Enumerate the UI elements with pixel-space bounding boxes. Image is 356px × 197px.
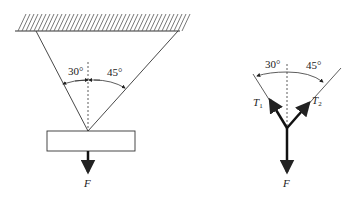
hatch-mark — [18, 14, 26, 31]
ceiling-hatch — [15, 14, 190, 31]
angle-label-45: 45° — [306, 59, 321, 71]
hatch-mark — [94, 14, 102, 31]
angle-arc-right — [287, 72, 323, 82]
tension1-label: T1 — [253, 96, 263, 110]
hatch-mark — [102, 14, 110, 31]
hatch-mark — [170, 14, 178, 31]
angle-label-30: 30° — [265, 58, 280, 70]
hatch-mark — [142, 14, 150, 31]
hatch-mark — [134, 14, 142, 31]
hanging-block — [47, 131, 135, 151]
hatch-mark — [114, 14, 122, 31]
hatch-mark — [154, 14, 162, 31]
tension2-label: T2 — [312, 94, 322, 108]
hatch-mark — [66, 14, 74, 31]
angle-label-45: 45° — [107, 66, 122, 78]
force-label: F — [282, 177, 290, 189]
hatch-mark — [138, 14, 146, 31]
hatch-mark — [106, 14, 114, 31]
hatch-mark — [58, 14, 66, 31]
angle-label-30: 30° — [68, 65, 83, 77]
hatch-mark — [30, 14, 38, 31]
hatch-mark — [126, 14, 134, 31]
hatch-mark — [150, 14, 158, 31]
hatch-mark — [174, 14, 182, 31]
angle-arc-left2 — [75, 80, 88, 81]
hatch-mark — [54, 14, 62, 31]
hatch-mark — [86, 14, 94, 31]
hatch-mark — [90, 14, 98, 31]
hatch-mark — [162, 14, 170, 31]
hatch-mark — [50, 14, 58, 31]
hatch-mark — [178, 14, 186, 31]
hatch-mark — [78, 14, 86, 31]
rope-right — [88, 31, 178, 131]
hatch-mark — [158, 14, 166, 31]
hatch-mark — [166, 14, 174, 31]
right-panel: 30° 45° T1 T2 F — [253, 58, 341, 189]
hatch-mark — [38, 14, 46, 31]
hatch-mark — [122, 14, 130, 31]
hatch-mark — [146, 14, 154, 31]
hatch-mark — [22, 14, 30, 31]
tension2-arrow — [287, 103, 309, 128]
tension1-arrow — [270, 100, 287, 128]
hatch-mark — [62, 14, 70, 31]
hatch-mark — [82, 14, 90, 31]
free-body-diagram: 30° 45° F 30° 45° T1 T2 F — [0, 0, 356, 197]
left-panel: 30° 45° F — [15, 14, 190, 189]
hatch-mark — [182, 14, 190, 31]
hatch-mark — [70, 14, 78, 31]
hatch-mark — [42, 14, 50, 31]
hatch-mark — [130, 14, 138, 31]
hatch-mark — [34, 14, 42, 31]
angle-arc-right — [94, 80, 125, 88]
force-label: F — [83, 177, 91, 189]
hatch-mark — [74, 14, 82, 31]
hatch-mark — [118, 14, 126, 31]
hatch-mark — [46, 14, 54, 31]
hatch-mark — [110, 14, 118, 31]
rope-left — [36, 31, 88, 131]
hatch-mark — [98, 14, 106, 31]
hatch-mark — [26, 14, 34, 31]
angle-arc-left — [257, 72, 287, 76]
